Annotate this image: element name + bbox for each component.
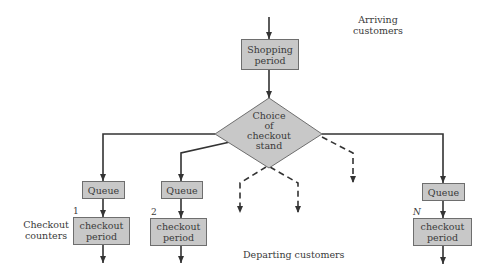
counter-n-number: N bbox=[413, 207, 421, 217]
arriving-line1: Arriving bbox=[348, 14, 408, 25]
checkout-1-line1: checkout bbox=[80, 220, 124, 231]
checkout-counters-line2: counters bbox=[22, 230, 70, 241]
shopping-line2: period bbox=[247, 55, 293, 66]
checkout-2-line2: period bbox=[157, 232, 201, 243]
shopping-line1: Shopping bbox=[247, 44, 293, 55]
counter-2-number: 2 bbox=[151, 207, 157, 217]
departing-customers-label: Departing customers bbox=[243, 249, 363, 260]
checkout-period-2-box: checkout period bbox=[150, 218, 207, 246]
checkout-counters-line1: Checkout bbox=[22, 219, 70, 230]
queue-2-label: Queue bbox=[166, 185, 197, 196]
checkout-period-n-box: checkout period bbox=[413, 218, 472, 246]
choice-of-checkout-stand-label: Choice of checkout stand bbox=[239, 111, 299, 151]
checkout-n-line1: checkout bbox=[421, 221, 465, 232]
shopping-period-box: Shopping period bbox=[241, 39, 299, 70]
queue-1-box: Queue bbox=[82, 181, 125, 199]
arriving-customers-label: Arriving customers bbox=[348, 14, 408, 36]
checkout-period-1-box: checkout period bbox=[73, 217, 130, 245]
checkout-1-line2: period bbox=[80, 231, 124, 242]
checkout-2-line1: checkout bbox=[157, 221, 201, 232]
arriving-line2: customers bbox=[348, 25, 408, 36]
checkout-counters-label: Checkout counters bbox=[22, 219, 70, 241]
choice-line4: stand bbox=[239, 141, 299, 151]
checkout-n-line2: period bbox=[421, 232, 465, 243]
queue-n-label: Queue bbox=[428, 187, 459, 198]
queue-n-box: Queue bbox=[422, 183, 465, 201]
queue-2-box: Queue bbox=[161, 181, 203, 199]
queue-1-label: Queue bbox=[88, 185, 119, 196]
counter-1-number: 1 bbox=[73, 206, 79, 216]
